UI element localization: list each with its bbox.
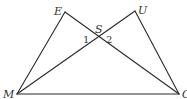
geometry-diagram: E U M O S 1 2 [0, 0, 187, 99]
segment-UO [135, 11, 179, 94]
angle-label-1: 1 [83, 34, 89, 45]
point-label-m: M [2, 88, 15, 99]
segment-MU [17, 11, 135, 94]
angle-label-2: 2 [106, 34, 112, 45]
point-label-s: S [95, 23, 103, 36]
segment-ME [17, 12, 65, 94]
point-label-e: E [53, 5, 62, 18]
point-label-o: O [182, 88, 187, 99]
point-label-u: U [138, 4, 148, 17]
segment-EO [65, 12, 179, 94]
